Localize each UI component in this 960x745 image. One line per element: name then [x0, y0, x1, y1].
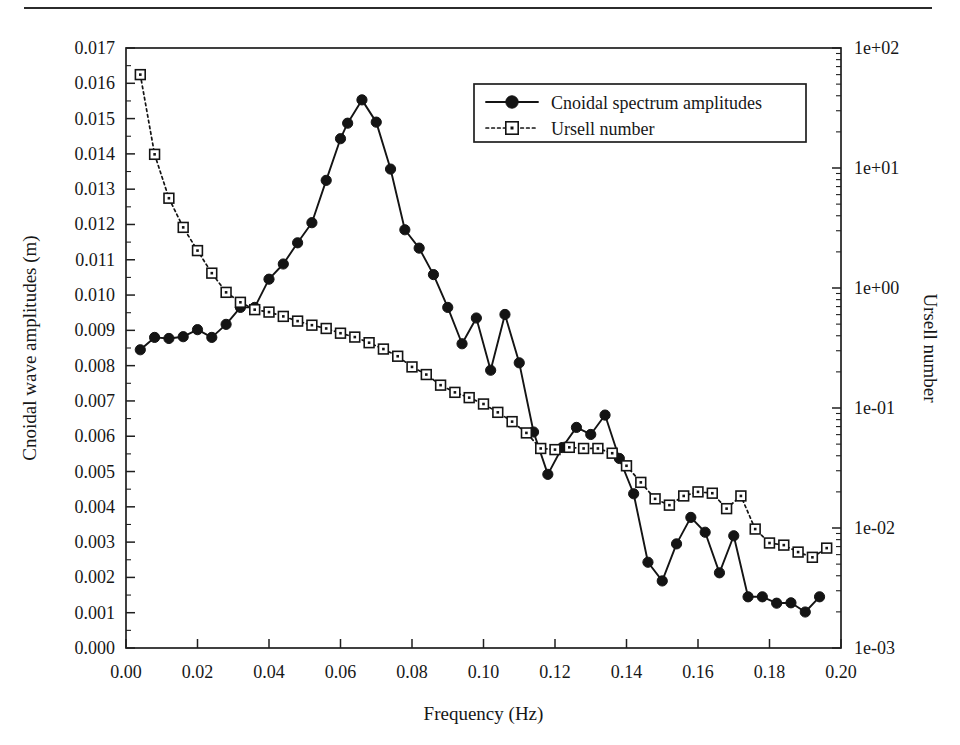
left-axis-tick-label: 0.012: [75, 214, 116, 234]
data-point-marker: [800, 607, 810, 617]
left-axis-tick-label: 0.003: [75, 532, 116, 552]
data-point-marker-center: [339, 332, 342, 335]
data-point-marker-center: [497, 411, 500, 414]
left-axis-tick-label: 0.002: [75, 567, 116, 587]
left-axis-tick-label: 0.004: [75, 497, 116, 517]
data-point-marker-center: [825, 547, 828, 550]
data-point-marker-center: [396, 355, 399, 358]
legend-label-2: Ursell number: [551, 119, 654, 139]
data-point-marker: [428, 269, 438, 279]
right-axis-tick-label: 1e-01: [854, 398, 895, 418]
data-point-marker-center: [582, 447, 585, 450]
data-point-marker: [600, 410, 610, 420]
data-point-marker: [221, 319, 231, 329]
left-axis-tick-label: 0.014: [75, 144, 116, 164]
data-point-marker-center: [640, 481, 643, 484]
data-point-marker-center: [482, 403, 485, 406]
left-axis-tick-label: 0.009: [75, 320, 116, 340]
left-axis-tick-label: 0.008: [75, 356, 116, 376]
data-point-marker-center: [139, 73, 142, 76]
data-point-marker: [150, 332, 160, 342]
data-point-marker-center: [611, 452, 614, 455]
data-point-marker-center: [382, 348, 385, 351]
data-point-marker-center: [196, 249, 199, 252]
data-point-marker-center: [368, 341, 371, 344]
data-point-marker-center: [682, 495, 685, 498]
data-point-marker: [500, 309, 510, 319]
data-point-marker: [714, 568, 724, 578]
data-point-marker: [357, 95, 367, 105]
data-point-marker: [757, 592, 767, 602]
right-axis-tick-label: 1e+01: [854, 158, 899, 178]
data-point-marker-center: [597, 447, 600, 450]
data-point-marker: [643, 557, 653, 567]
data-point-marker: [629, 489, 639, 499]
data-point-marker: [657, 576, 667, 586]
data-point-marker: [443, 302, 453, 312]
series-line-2: [140, 75, 826, 558]
data-point-marker-center: [811, 556, 814, 559]
data-point-marker-center: [654, 498, 657, 501]
left-axis-tick-label: 0.005: [75, 462, 116, 482]
data-point-marker: [729, 531, 739, 541]
left-axis-tick-label: 0.001: [75, 603, 116, 623]
data-point-marker: [178, 332, 188, 342]
data-point-marker: [743, 592, 753, 602]
bottom-axis-title: Frequency (Hz): [424, 703, 544, 725]
data-point-marker: [814, 592, 824, 602]
bottom-axis-tick-label: 0.16: [682, 662, 714, 682]
data-point-marker-center: [168, 197, 171, 200]
data-point-marker: [786, 598, 796, 608]
chart-canvas: 0.0000.0010.0020.0030.0040.0050.0060.007…: [0, 0, 960, 745]
data-point-marker: [486, 365, 496, 375]
bottom-axis-tick-label: 0.06: [325, 662, 357, 682]
data-point-marker-center: [153, 153, 156, 156]
data-point-marker: [700, 527, 710, 537]
data-point-marker-center: [296, 320, 299, 323]
left-axis-tick-label: 0.015: [75, 109, 116, 129]
data-point-marker: [371, 117, 381, 127]
data-point-marker-center: [311, 324, 314, 327]
right-axis-tick-label: 1e+00: [854, 278, 899, 298]
data-point-marker-center: [268, 311, 271, 314]
data-point-marker: [586, 429, 596, 439]
left-axis-title: Cnoidal wave amplitudes (m): [19, 235, 41, 460]
data-point-marker-center: [511, 420, 514, 423]
right-axis-title: Ursell number: [920, 293, 941, 403]
data-point-marker-center: [711, 492, 714, 495]
series-line-1: [140, 100, 819, 612]
data-point-marker-center: [725, 507, 728, 510]
left-axis-tick-label: 0.007: [75, 391, 116, 411]
data-point-marker: [385, 164, 395, 174]
right-axis-tick-label: 1e+02: [854, 38, 899, 58]
bottom-axis-tick-label: 0.08: [396, 662, 428, 682]
left-axis-tick-label: 0.000: [75, 638, 116, 658]
data-point-marker: [192, 325, 202, 335]
data-point-marker: [164, 333, 174, 343]
bottom-axis-tick-label: 0.20: [825, 662, 857, 682]
data-point-marker: [414, 243, 424, 253]
data-point-marker-center: [468, 396, 471, 399]
data-point-marker-center: [768, 542, 771, 545]
data-point-marker-center: [439, 384, 442, 387]
left-axis-tick-label: 0.006: [75, 426, 116, 446]
left-axis-tick-label: 0.017: [75, 38, 116, 58]
data-point-marker-center: [354, 336, 357, 339]
data-point-marker: [307, 218, 317, 228]
left-axis-tick-label: 0.010: [75, 285, 116, 305]
data-point-marker: [571, 422, 581, 432]
data-point-marker: [457, 339, 467, 349]
data-point-marker-center: [625, 464, 628, 467]
left-axis-tick-label: 0.011: [75, 250, 115, 270]
data-point-marker-center: [253, 308, 256, 311]
data-point-marker-center: [797, 551, 800, 554]
data-point-marker-center: [182, 226, 185, 229]
data-point-marker-center: [554, 448, 557, 451]
figure-container: 0.0000.0010.0020.0030.0040.0050.0060.007…: [0, 0, 960, 745]
bottom-axis-tick-label: 0.04: [253, 662, 285, 682]
legend-label-1: Cnoidal spectrum amplitudes: [551, 93, 762, 113]
data-point-marker-center: [525, 432, 528, 435]
data-point-marker-center: [783, 544, 786, 547]
data-point-marker: [543, 469, 553, 479]
data-point-marker: [400, 225, 410, 235]
